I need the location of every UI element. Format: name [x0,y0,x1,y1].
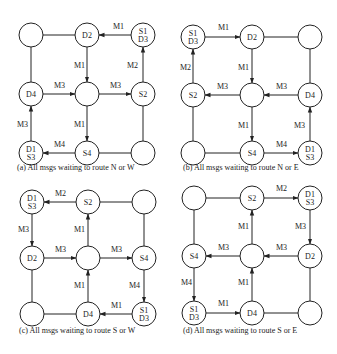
router-node [240,244,264,268]
message-label: M3 [55,245,66,254]
router-node: S4 [182,244,206,268]
router-node [131,141,155,165]
message-label: M3 [276,82,287,91]
router-node: S2 [131,82,155,106]
router-node: D2 [298,244,322,268]
message-label: M1 [74,61,85,70]
router-node: S2 [76,190,100,214]
router-node [298,25,322,49]
router-node: D2 [75,23,99,47]
router-node [75,82,99,106]
message-label: M3 [217,82,228,91]
router-node: S2 [240,186,264,210]
router-node: D4 [19,82,43,106]
panel-caption: (c) All msgs waiting to route S or W [19,326,136,335]
router-node [132,190,156,214]
router-node [76,246,100,270]
panel-caption: (d) All msgs waiting to route S or E [183,326,297,335]
router-node: D1S3 [20,190,44,214]
router-node [240,83,264,107]
router-node: S4 [240,141,264,165]
node-label: D4 [305,91,315,100]
node-label: D3 [189,313,199,322]
message-label: M1 [238,278,249,287]
message-label: M3 [276,243,287,252]
router-node: S1D3 [181,25,205,49]
router-node: D1S3 [298,141,322,165]
node-label: S3 [306,198,314,207]
message-label: M1 [74,281,85,290]
router-node: S2 [181,83,205,107]
panel-caption: (a) All msgs waiting to route N or W [17,163,135,172]
node-label: D2 [247,33,257,42]
node-label: S4 [248,149,256,158]
router-node [20,302,44,326]
message-label: M3 [111,245,122,254]
router-node: D1S3 [298,186,322,210]
node-label: D2 [305,252,315,261]
node-label: S3 [27,153,35,162]
message-label: M3 [54,81,65,90]
message-label: M2 [276,184,287,193]
node-label: D2 [82,31,92,40]
message-label: M1 [113,22,124,31]
message-label: M1 [111,301,122,310]
router-node: D4 [76,302,100,326]
router-node [19,23,43,47]
router-node: D4 [298,83,322,107]
node-label: S2 [139,90,147,99]
router-node [181,141,205,165]
router-node: S1D3 [182,301,206,325]
message-label: M1 [238,121,249,130]
node-label: S4 [140,254,148,263]
node-label: D4 [247,309,257,318]
node-label: D4 [26,90,36,99]
router-node: D4 [240,301,264,325]
node-label: S4 [190,252,198,261]
message-label: M1 [238,222,249,231]
message-label: M4 [129,281,140,290]
node-label: D3 [139,314,149,323]
message-label: M3 [110,81,121,90]
router-node: S4 [75,141,99,165]
message-label: M1 [74,225,85,234]
router-node: S4 [132,246,156,270]
message-label: M2 [180,63,191,72]
node-label: S2 [189,91,197,100]
message-label: M1 [238,63,249,72]
router-node: S1D3 [131,23,155,47]
message-label: M4 [181,278,192,287]
node-label: S3 [306,153,314,162]
router-node: S1D3 [132,302,156,326]
node-label: D4 [83,310,93,319]
message-label: M3 [17,120,28,129]
message-label: M2 [55,189,66,198]
panel-caption: (b) All msgs waiting to route N or E [183,163,299,172]
node-label: S3 [28,202,36,211]
node-label: D3 [138,35,148,44]
message-label: M3 [18,225,29,234]
message-label: M2 [127,61,138,70]
node-label: S2 [248,194,256,203]
router-node [182,186,206,210]
message-label: M1 [218,299,229,308]
mesh-routing-diagram: D2S1D3D4S2D1S3S4S1D3D2S2D4S4D1S3D1S3S2D2… [0,0,337,354]
node-label: D3 [188,37,198,46]
message-label: M3 [294,121,305,130]
router-node [298,301,322,325]
router-node: D2 [20,246,44,270]
message-label: M1 [74,120,85,129]
router-node: D2 [240,25,264,49]
node-label: S2 [84,198,92,207]
router-node: D1S3 [19,141,43,165]
node-label: S4 [83,149,91,158]
message-label: M1 [218,23,229,32]
message-label: M3 [295,222,306,231]
message-label: M4 [276,140,287,149]
message-label: M3 [218,243,229,252]
node-label: D2 [27,254,37,263]
message-label: M4 [54,140,65,149]
